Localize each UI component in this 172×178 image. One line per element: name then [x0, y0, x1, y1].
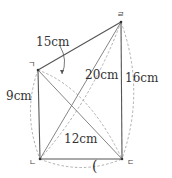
length-label-15cm: 15cm	[36, 35, 70, 49]
arc-12cm	[40, 159, 122, 168]
vertex-label-digeut: ㄷ	[127, 158, 134, 167]
vertex-label-rieul: ㄹ	[117, 10, 124, 19]
answer-parenthesis: (	[92, 158, 97, 174]
length-label-20cm: 20cm	[85, 68, 119, 82]
vertex-dot	[37, 69, 40, 72]
quadrilateral-diagram: ㄱ ㄴ ㄷ ㄹ 15cm 20cm 16cm 9cm 12cm (	[0, 0, 172, 178]
length-label-9cm: 9cm	[6, 89, 32, 103]
length-label-12cm: 12cm	[64, 132, 98, 146]
arc-15cm-pointer	[60, 46, 65, 74]
arrow-head-icon	[60, 70, 64, 74]
vertex-dot	[39, 158, 42, 161]
arc-16cm	[121, 22, 134, 159]
vertex-dot	[121, 158, 124, 161]
vertex-label-giyeok: ㄱ	[28, 60, 35, 69]
vertex-label-nieun: ㄴ	[29, 158, 36, 167]
length-label-16cm: 16cm	[125, 71, 159, 85]
edge-digeut-rieul	[121, 22, 122, 159]
edge-giyeok-nieun	[38, 70, 40, 159]
vertex-dot	[120, 21, 123, 24]
